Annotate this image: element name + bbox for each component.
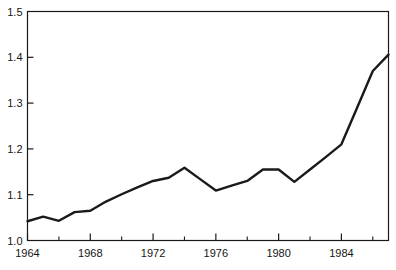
line-chart: 1.01.11.21.31.41.5 196419681972197619801… <box>0 0 396 270</box>
x-tick-label: 1984 <box>329 247 353 259</box>
y-tick-label: 1.4 <box>7 51 22 63</box>
y-tick-label: 1.1 <box>7 189 22 201</box>
x-tick-label: 1964 <box>15 247 39 259</box>
x-tick-label: 1980 <box>266 247 290 259</box>
y-tick-label: 1.2 <box>7 143 22 155</box>
y-tick-label: 1.5 <box>7 6 22 18</box>
y-tick-label: 1.3 <box>7 97 22 109</box>
y-tick-label: 1.0 <box>7 235 22 247</box>
chart-background <box>0 0 396 270</box>
x-tick-label: 1976 <box>204 247 228 259</box>
x-tick-label: 1972 <box>141 247 165 259</box>
x-tick-label: 1968 <box>78 247 102 259</box>
chart-canvas: 1.01.11.21.31.41.5 196419681972197619801… <box>0 0 396 270</box>
